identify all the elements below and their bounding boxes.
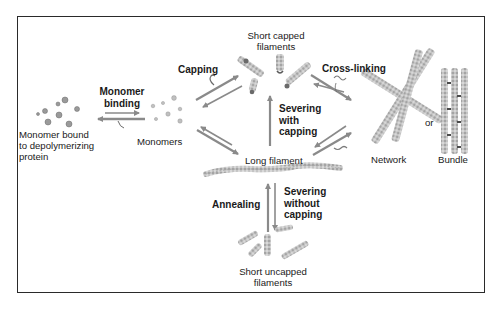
bound-monomer-cluster-icon bbox=[37, 97, 80, 127]
capping-label: Capping bbox=[178, 64, 218, 76]
bound-monomer-label-line2: to depolymerizing bbox=[19, 140, 94, 151]
short-uncapped-label-line1: Short uncapped bbox=[231, 266, 315, 277]
monomers-label: Monomers bbox=[137, 136, 182, 147]
short-uncapped-filaments-icon bbox=[237, 224, 310, 260]
severing-without-capping-line1: Severing bbox=[284, 186, 326, 198]
cross-linking-label: Cross-linking bbox=[322, 63, 386, 75]
monomer-binding-line1: Monomer bbox=[94, 86, 150, 98]
severing-without-capping-label: Severing without capping bbox=[284, 186, 326, 221]
short-capped-label-line2: filaments bbox=[241, 41, 311, 52]
bound-monomer-label-line1: Monomer bound bbox=[19, 129, 94, 140]
bound-monomer-label-line3: protein bbox=[19, 151, 94, 162]
monomers-cluster-icon bbox=[151, 96, 182, 124]
short-uncapped-label-line2: filaments bbox=[231, 277, 315, 288]
or-label: or bbox=[425, 117, 434, 128]
annealing-label: Annealing bbox=[212, 199, 260, 211]
severing-with-capping-label: Severing with capping bbox=[279, 103, 321, 138]
bundle-label: Bundle bbox=[438, 154, 468, 165]
monomer-binding-label: Monomer binding bbox=[94, 86, 150, 109]
severing-with-capping-line2: with bbox=[279, 115, 321, 127]
severing-with-capping-line3: capping bbox=[279, 126, 321, 138]
short-capped-filaments-icon bbox=[236, 54, 312, 94]
monomer-binding-line2: binding bbox=[94, 98, 150, 110]
short-uncapped-label: Short uncapped filaments bbox=[231, 266, 315, 288]
severing-without-capping-line2: without bbox=[284, 198, 326, 210]
long-filament-icon bbox=[206, 165, 340, 174]
network-label: Network bbox=[371, 154, 406, 165]
network-icon bbox=[360, 47, 444, 145]
bound-monomer-label: Monomer bound to depolymerizing protein bbox=[19, 129, 94, 162]
severing-without-capping-line3: capping bbox=[284, 209, 326, 221]
bundle-icon bbox=[441, 68, 468, 154]
long-filament-label: Long filament bbox=[245, 155, 303, 166]
short-capped-label-line1: Short capped bbox=[241, 30, 311, 41]
short-capped-label: Short capped filaments bbox=[241, 30, 311, 52]
severing-with-capping-line1: Severing bbox=[279, 103, 321, 115]
